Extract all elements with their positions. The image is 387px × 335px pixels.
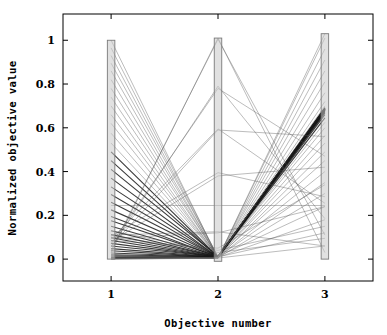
y-tick-label: 0.4 xyxy=(36,166,55,179)
y-tick-label: 0.2 xyxy=(36,209,55,222)
y-axis-title: Normalized objective value xyxy=(6,61,18,236)
y-tick-label: 0 xyxy=(47,253,55,266)
x-tick-label: 3 xyxy=(321,288,329,301)
x-axis-title: Objective number xyxy=(164,317,272,329)
axis-bar xyxy=(214,38,222,261)
y-tick-label: 0.8 xyxy=(36,78,55,91)
x-tick-label: 1 xyxy=(107,288,115,301)
x-tick-label: 2 xyxy=(214,288,222,301)
axis-bar xyxy=(321,34,329,259)
axis-bar xyxy=(107,40,115,259)
parallel-coordinates-figure: 00.20.40.60.81123 Objective number Norma… xyxy=(0,0,387,335)
y-tick-label: 1 xyxy=(47,34,55,47)
plot-canvas: 00.20.40.60.81123 Objective number Norma… xyxy=(0,0,387,335)
y-tick-label: 0.6 xyxy=(36,122,55,135)
